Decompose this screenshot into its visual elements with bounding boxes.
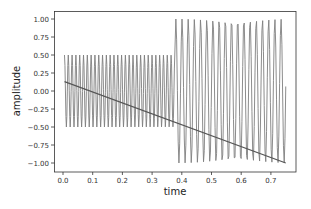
y-tick-label: −0.50 (28, 124, 49, 132)
x-tick-label: 0.5 (206, 177, 217, 185)
y-tick-label: 0.25 (33, 70, 49, 78)
y-tick-label: −1.00 (28, 160, 49, 168)
signal-segment-2 (176, 19, 286, 163)
y-tick-label: −0.25 (28, 106, 49, 114)
signal-series (64, 19, 285, 163)
y-tick-label: 1.00 (33, 16, 49, 24)
x-tick-label: 0.7 (265, 177, 276, 185)
y-axis-ticks: 1.000.750.500.250.00−0.25−0.50−0.75−1.00 (28, 16, 55, 168)
x-tick-label: 0.6 (236, 177, 248, 185)
y-tick-label: 0.00 (33, 88, 49, 96)
x-tick-label: 0.0 (57, 177, 68, 185)
x-tick-label: 0.4 (176, 177, 188, 185)
plot-area (64, 19, 285, 163)
y-tick-label: −0.75 (28, 142, 49, 150)
chart: 0.00.10.20.30.40.50.60.7 1.000.750.500.2… (0, 0, 311, 209)
y-axis-label: amplitude (11, 66, 22, 117)
x-tick-label: 0.3 (147, 177, 158, 185)
y-tick-label: 0.50 (33, 52, 49, 60)
x-axis-label: time (164, 186, 187, 197)
x-axis-ticks: 0.00.10.20.30.40.50.60.7 (57, 172, 276, 185)
signal-join (174, 19, 175, 68)
y-tick-label: 0.75 (33, 34, 49, 42)
x-tick-label: 0.2 (117, 177, 128, 185)
x-tick-label: 0.1 (87, 177, 98, 185)
